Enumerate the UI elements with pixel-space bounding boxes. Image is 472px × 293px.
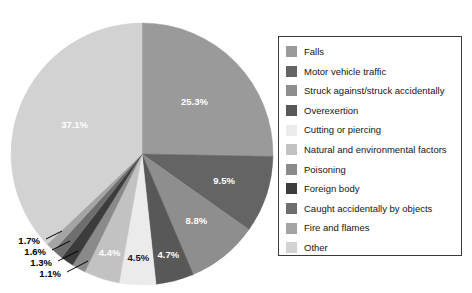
legend-item-label: Overexertion — [304, 106, 358, 116]
pie-slice-value-label: 9.5% — [213, 175, 235, 186]
pie-slice-value-label: 4.5% — [128, 252, 150, 263]
legend-item[interactable]: Cutting or piercing — [286, 120, 461, 140]
pie-slice-value-label: 4.4% — [99, 247, 121, 258]
legend-item-label: Struck against/struck accidentally — [304, 86, 444, 96]
pie-slice-group — [11, 23, 273, 285]
legend-item[interactable]: Motor vehicle traffic — [286, 62, 461, 82]
chart-legend: FallsMotor vehicle trafficStruck against… — [278, 36, 462, 256]
legend-item[interactable]: Overexertion — [286, 101, 461, 121]
legend-item[interactable]: Struck against/struck accidentally — [286, 81, 461, 101]
pie-callout-value-label: 1.7% — [18, 235, 40, 246]
legend-item-label: Foreign body — [304, 184, 359, 194]
legend-item[interactable]: Fire and flames — [286, 218, 461, 238]
legend-color-swatch — [286, 183, 297, 194]
pie-chart-figure: 25.3%9.5%8.8%4.7%4.5%4.4%37.1% 1.7%1.6%1… — [0, 0, 472, 293]
legend-color-swatch — [286, 203, 297, 214]
legend-item[interactable]: Falls — [286, 42, 461, 62]
legend-item-label: Falls — [304, 47, 324, 57]
pie-slice-value-label: 37.1% — [61, 119, 88, 130]
legend-item-label: Other — [304, 243, 328, 253]
legend-color-swatch — [286, 85, 297, 96]
pie-slice-value-label: 25.3% — [181, 96, 208, 107]
legend-color-swatch — [286, 144, 297, 155]
legend-item-label: Natural and environmental factors — [304, 145, 447, 155]
legend-color-swatch — [286, 125, 297, 136]
pie-callout-value-label: 1.1% — [39, 268, 61, 279]
legend-item[interactable]: Caught accidentally by objects — [286, 199, 461, 219]
legend-color-swatch — [286, 66, 297, 77]
legend-item-label: Motor vehicle traffic — [304, 67, 386, 77]
legend-item-label: Poisoning — [304, 165, 346, 175]
legend-color-swatch — [286, 164, 297, 175]
legend-color-swatch — [286, 46, 297, 57]
legend-color-swatch — [286, 105, 297, 116]
pie-slice-value-label: 8.8% — [185, 215, 207, 226]
pie-callout-value-label: 1.3% — [30, 257, 52, 268]
pie-callout-value-label: 1.6% — [24, 246, 46, 257]
legend-item-label: Caught accidentally by objects — [304, 204, 432, 214]
legend-color-swatch — [286, 242, 297, 253]
pie-slice-value-label: 4.7% — [158, 249, 180, 260]
pie-slice[interactable] — [142, 23, 273, 156]
legend-item[interactable]: Foreign body — [286, 179, 461, 199]
legend-item[interactable]: Natural and environmental factors — [286, 140, 461, 160]
legend-item[interactable]: Poisoning — [286, 160, 461, 180]
legend-item-label: Cutting or piercing — [304, 125, 381, 135]
legend-color-swatch — [286, 223, 297, 234]
legend-item-label: Fire and flames — [304, 223, 369, 233]
legend-item[interactable]: Other — [286, 238, 461, 258]
